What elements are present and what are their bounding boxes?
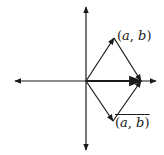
label-z-sep: , [130,28,138,43]
label-zc-sep: , [128,115,136,130]
vector-z-to-sum [114,38,141,81]
vector-z-conjugate [86,81,113,121]
label-z-conjugate: (a, b) [115,116,150,129]
vector-diagram [0,0,164,155]
label-zc-close: ) [144,115,149,130]
label-z-close: ) [146,28,151,43]
label-z: (a, b) [117,29,152,42]
label-zc-a: a [120,115,128,130]
vector-z [86,38,114,81]
label-z-a: a [122,28,130,43]
